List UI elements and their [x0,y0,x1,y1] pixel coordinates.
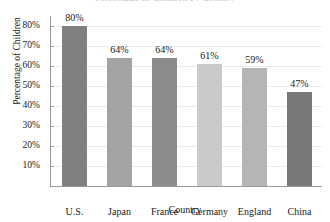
bar-chart: Percentage of Children by Country Percen… [0,0,330,222]
y-tick-label: 20% [0,141,40,151]
y-tick-mark [50,66,54,67]
y-tick-label: 10% [0,161,40,171]
gridline [50,66,322,67]
gridline [50,166,322,167]
y-tick-label: 80% [0,21,40,31]
x-axis-line [50,186,322,187]
chart-title: Percentage of Children by Country [0,0,330,1]
bar-value-label: 59% [232,55,278,65]
y-tick-label: 50% [0,81,40,91]
bar-value-label: 80% [52,13,98,23]
bar[interactable] [197,64,222,186]
gridline [50,26,322,27]
gridline [50,106,322,107]
bar[interactable] [152,58,177,186]
x-tick-label: China [272,206,328,217]
y-tick-mark [50,86,54,87]
y-tick-label: 70% [0,41,40,51]
y-tick-mark [50,126,54,127]
bar[interactable] [107,58,132,186]
bar-value-label: 64% [142,45,188,55]
y-tick-label: 40% [0,101,40,111]
plot-area: 10%20%30%40%50%60%70%80% 80%64%64%61%59%… [50,16,322,186]
gridline [50,146,322,147]
bar[interactable] [242,68,267,186]
bar[interactable] [62,26,87,186]
y-tick-label: 30% [0,121,40,131]
y-tick-mark [50,46,54,47]
gridline [50,126,322,127]
y-tick-mark [50,106,54,107]
bar-value-label: 64% [97,45,143,55]
bar[interactable] [287,92,312,186]
y-tick-mark [50,26,54,27]
y-tick-label: 60% [0,61,40,71]
bar-value-label: 47% [277,79,323,89]
bar-value-label: 61% [187,51,233,61]
y-tick-mark [50,146,54,147]
y-tick-mark [50,166,54,167]
